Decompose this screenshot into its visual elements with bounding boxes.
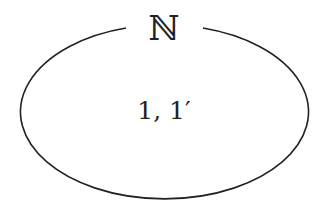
set-elements-label: 1, 1′	[114, 96, 214, 126]
set-name-label: ℕ	[144, 8, 184, 48]
